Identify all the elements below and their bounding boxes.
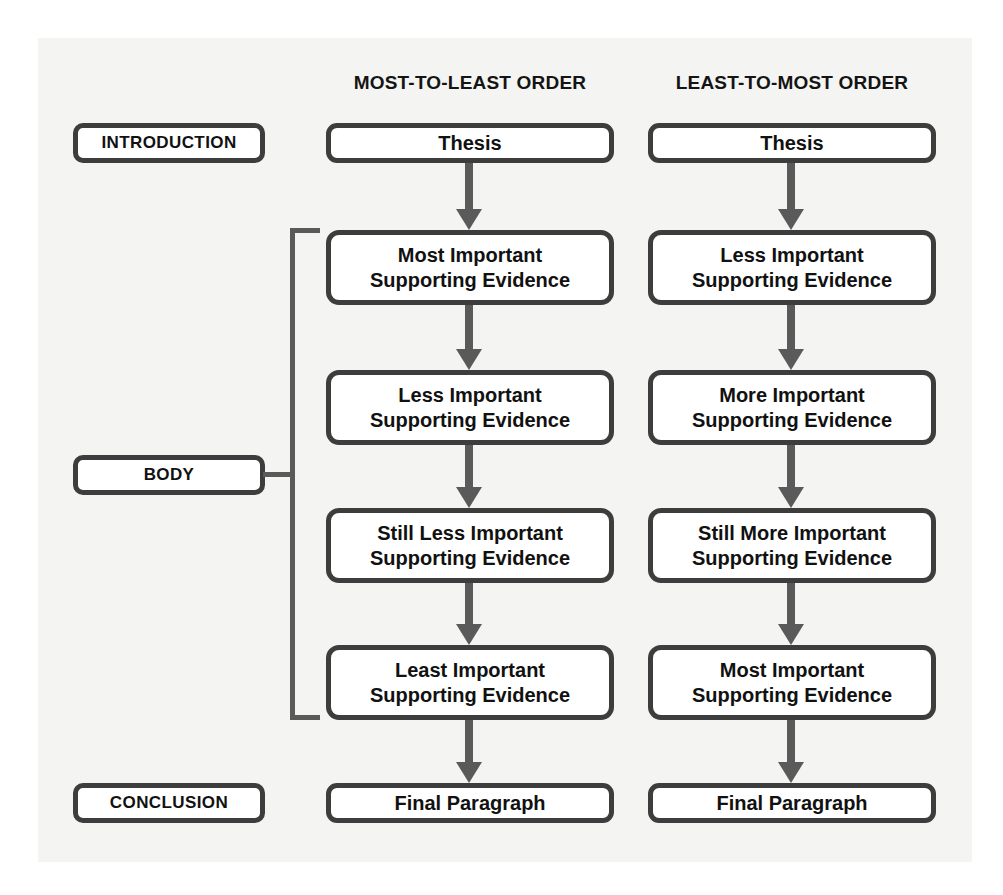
arrow-down-icon (778, 305, 804, 370)
least-to-most-step-evidence-2: More Important Supporting Evidence (648, 370, 936, 445)
step-line-1: Thesis (760, 131, 823, 155)
step-line-1: Most Important (370, 243, 570, 267)
body-bracket (290, 228, 320, 720)
arrow-down-icon (456, 163, 482, 230)
step-line-2: Supporting Evidence (692, 408, 892, 432)
most-to-least-step-evidence-4: Least Important Supporting Evidence (326, 645, 614, 720)
most-to-least-step-thesis: Thesis (326, 123, 614, 163)
section-label-conclusion-text: CONCLUSION (110, 793, 228, 814)
step-line-2: Supporting Evidence (370, 546, 570, 570)
least-to-most-step-evidence-4: Most Important Supporting Evidence (648, 645, 936, 720)
body-bracket-top-arm (290, 228, 320, 233)
step-line-2: Supporting Evidence (692, 683, 892, 707)
section-label-body: BODY (73, 455, 265, 495)
arrow-down-icon (778, 163, 804, 230)
column-header-least-to-most: LEAST-TO-MOST ORDER (648, 72, 936, 94)
most-to-least-step-final-paragraph: Final Paragraph (326, 783, 614, 823)
step-line-1: Most Important (692, 658, 892, 682)
section-label-body-text: BODY (144, 465, 195, 486)
arrow-down-icon (456, 720, 482, 783)
step-line-2: Supporting Evidence (370, 683, 570, 707)
step-line-1: Final Paragraph (716, 791, 867, 815)
step-line-1: Least Important (370, 658, 570, 682)
section-label-introduction: INTRODUCTION (73, 123, 265, 163)
arrow-down-icon (778, 445, 804, 508)
step-line-1: Less Important (692, 243, 892, 267)
least-to-most-step-evidence-1: Less Important Supporting Evidence (648, 230, 936, 305)
most-to-least-step-evidence-3: Still Less Important Supporting Evidence (326, 508, 614, 583)
step-line-2: Supporting Evidence (370, 268, 570, 292)
step-line-1: More Important (692, 383, 892, 407)
section-label-introduction-text: INTRODUCTION (101, 133, 236, 154)
step-line-2: Supporting Evidence (692, 546, 892, 570)
arrow-down-icon (456, 583, 482, 645)
arrow-down-icon (456, 305, 482, 370)
section-label-conclusion: CONCLUSION (73, 783, 265, 823)
least-to-most-step-evidence-3: Still More Important Supporting Evidence (648, 508, 936, 583)
arrow-down-icon (456, 445, 482, 508)
step-line-1: Still Less Important (370, 521, 570, 545)
column-header-most-to-least: MOST-TO-LEAST ORDER (326, 72, 614, 94)
step-line-1: Thesis (438, 131, 501, 155)
body-bracket-spine (290, 228, 295, 720)
essay-organization-diagram: MOST-TO-LEAST ORDER LEAST-TO-MOST ORDER … (0, 0, 1003, 895)
body-bracket-bottom-arm (290, 715, 320, 720)
most-to-least-step-evidence-1: Most Important Supporting Evidence (326, 230, 614, 305)
most-to-least-step-evidence-2: Less Important Supporting Evidence (326, 370, 614, 445)
step-line-1: Still More Important (692, 521, 892, 545)
least-to-most-step-thesis: Thesis (648, 123, 936, 163)
arrow-down-icon (778, 720, 804, 783)
body-label-connector (263, 472, 293, 477)
step-line-1: Final Paragraph (394, 791, 545, 815)
step-line-2: Supporting Evidence (692, 268, 892, 292)
least-to-most-step-final-paragraph: Final Paragraph (648, 783, 936, 823)
arrow-down-icon (778, 583, 804, 645)
step-line-1: Less Important (370, 383, 570, 407)
step-line-2: Supporting Evidence (370, 408, 570, 432)
